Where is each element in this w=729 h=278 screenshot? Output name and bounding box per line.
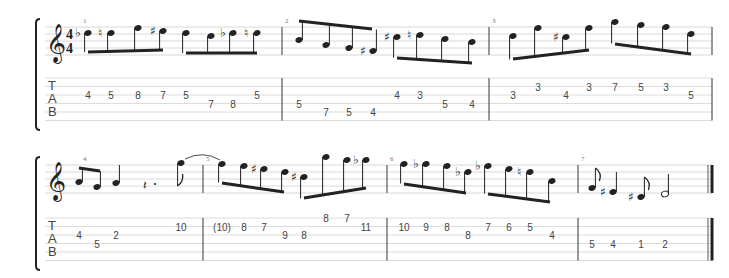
tab-fret-number: 4: [563, 90, 569, 101]
accidental-icon: ♭: [75, 26, 81, 40]
tab-fret-number: 5: [108, 90, 114, 101]
tab-fret-number: 4: [76, 230, 82, 241]
tab-fret-number: 7: [612, 82, 618, 93]
accidental-icon: ♮: [517, 165, 521, 179]
tab-fret-number: 5: [442, 99, 448, 110]
tab-fret-number: 2: [662, 239, 668, 250]
measure-number: 7: [581, 155, 585, 163]
time-signature-top: 4: [66, 27, 73, 42]
note-flag: [178, 174, 183, 186]
system-bracket: [36, 157, 40, 270]
tab-fret-number: 2: [113, 230, 119, 241]
tab-fret-number: 5: [183, 90, 189, 101]
rest-dot: [154, 183, 156, 185]
measure-number: 1: [83, 17, 87, 25]
tab-label: B: [48, 104, 57, 119]
accidental-icon: ♮: [98, 26, 102, 40]
tab-fret-number: 5: [638, 82, 644, 93]
tab-fret-number: 9: [423, 222, 429, 233]
tab-fret-number: 8: [135, 90, 141, 101]
tab-fret-number: 8: [465, 230, 471, 241]
tab-fret-number: 9: [282, 230, 288, 241]
measure-number: 6: [390, 155, 394, 163]
accidental-icon: ♭: [455, 165, 461, 179]
tab-fret-number: 7: [344, 213, 350, 224]
accidental-icon: ♭: [220, 26, 226, 40]
tab-fret-number: 5: [589, 239, 595, 250]
system-bracket: [36, 19, 40, 130]
tab-fret-number: 11: [361, 222, 372, 233]
tab-fret-number: 5: [296, 99, 302, 110]
time-signature-bottom: 4: [66, 41, 73, 56]
tab-fret-number: 4: [85, 90, 91, 101]
tab-fret-number: 10: [398, 222, 410, 233]
measure-number: 4: [83, 155, 87, 163]
tab-label: B: [48, 244, 57, 259]
tab-fret-number: 8: [323, 213, 329, 224]
tab-fret-number: 4: [610, 239, 616, 250]
accidental-icon: ♯: [553, 30, 559, 44]
tab-fret-number: 8: [241, 222, 247, 233]
treble-clef-icon: 𝄞: [46, 22, 66, 64]
tab-fret-number: 3: [417, 90, 423, 101]
accidental-icon: ♮: [407, 28, 411, 42]
tab-fret-number: 5: [346, 107, 352, 118]
accidental-icon: ♭: [353, 153, 359, 167]
accidental-icon: ♯: [600, 185, 606, 199]
tab-fret-number: 7: [261, 222, 267, 233]
tie: [185, 155, 220, 160]
tab-fret-number: 3: [586, 82, 592, 93]
tab-fret-number: 10: [175, 222, 187, 233]
tab-fret-number: 5: [688, 90, 694, 101]
beam: [404, 184, 466, 193]
tab-fret-number: 4: [469, 99, 475, 110]
treble-clef-icon: 𝄞: [46, 160, 66, 202]
accidental-icon: ♭: [413, 157, 419, 171]
beam: [397, 58, 472, 63]
accidental-icon: ♯: [628, 190, 634, 204]
accidental-icon: ♯: [150, 24, 156, 38]
tab-fret-number: 4: [394, 90, 400, 101]
beam: [299, 21, 372, 29]
tab-fret-number: 1: [638, 239, 644, 250]
tab-fret-number: 3: [535, 82, 541, 93]
tab-fret-number: 7: [208, 99, 214, 110]
accidental-icon: ♯: [251, 162, 257, 176]
tab-fret-number: 8: [230, 99, 236, 110]
measure-number: 5: [206, 155, 210, 163]
beam: [615, 44, 691, 54]
beam: [222, 183, 284, 192]
accidental-icon: ♯: [384, 30, 390, 44]
tab-fret-number: 8: [444, 222, 450, 233]
beam: [88, 50, 163, 52]
quarter-rest-icon: 𝄽: [143, 179, 147, 193]
tab-fret-number: 7: [323, 107, 329, 118]
accidental-icon: ♮: [244, 26, 248, 40]
tab-fret-number: 7: [485, 222, 491, 233]
accidental-icon: ♯: [360, 44, 366, 58]
measure-number: 3: [492, 17, 496, 25]
tab-fret-number: 7: [160, 90, 166, 101]
beam: [488, 194, 550, 202]
accidental-icon: ♯: [291, 170, 297, 184]
tab-fret-number: 4: [370, 107, 376, 118]
measure-number: 2: [285, 17, 289, 25]
tab-fret-number: 5: [254, 90, 260, 101]
tab-fret-number: 5: [527, 222, 533, 233]
tab-fret-number: 6: [506, 222, 512, 233]
tab-fret-number: 4: [549, 230, 555, 241]
tab-fret-number: (10): [213, 222, 231, 233]
accidental-icon: ♭: [475, 159, 481, 173]
tab-fret-number: 3: [510, 90, 516, 101]
tab-fret-number: 3: [663, 82, 669, 93]
tab-fret-number: 8: [301, 230, 307, 241]
score: 𝄞44TAB145875785♭♮♯♭♮257544354♯♯♮33343753…: [0, 0, 729, 278]
tab-fret-number: 5: [94, 239, 100, 250]
